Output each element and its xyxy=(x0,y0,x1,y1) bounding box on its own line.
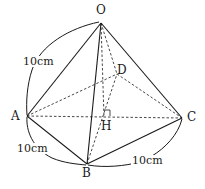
edge-oh xyxy=(101,23,104,117)
edge-oa xyxy=(27,23,101,116)
vertex-label-h: H xyxy=(101,120,111,132)
vertex-label-b: B xyxy=(82,167,91,179)
length-label-oa: 10cm xyxy=(22,56,55,67)
pyramid-diagram xyxy=(0,0,205,189)
length-label-ab: 10cm xyxy=(16,143,49,154)
edge-ab xyxy=(27,116,87,164)
edge-oc xyxy=(101,23,182,118)
edge-od xyxy=(101,23,117,74)
vertex-label-d: D xyxy=(117,64,127,76)
arc-ab xyxy=(27,117,86,165)
vertex-label-c: C xyxy=(187,111,196,123)
arc-oa xyxy=(27,22,99,115)
length-label-bc: 10cm xyxy=(131,155,164,166)
edge-ob xyxy=(87,23,101,164)
vertex-label-a: A xyxy=(11,110,20,122)
edge-ac xyxy=(27,116,182,118)
vertex-label-o: O xyxy=(96,4,106,16)
